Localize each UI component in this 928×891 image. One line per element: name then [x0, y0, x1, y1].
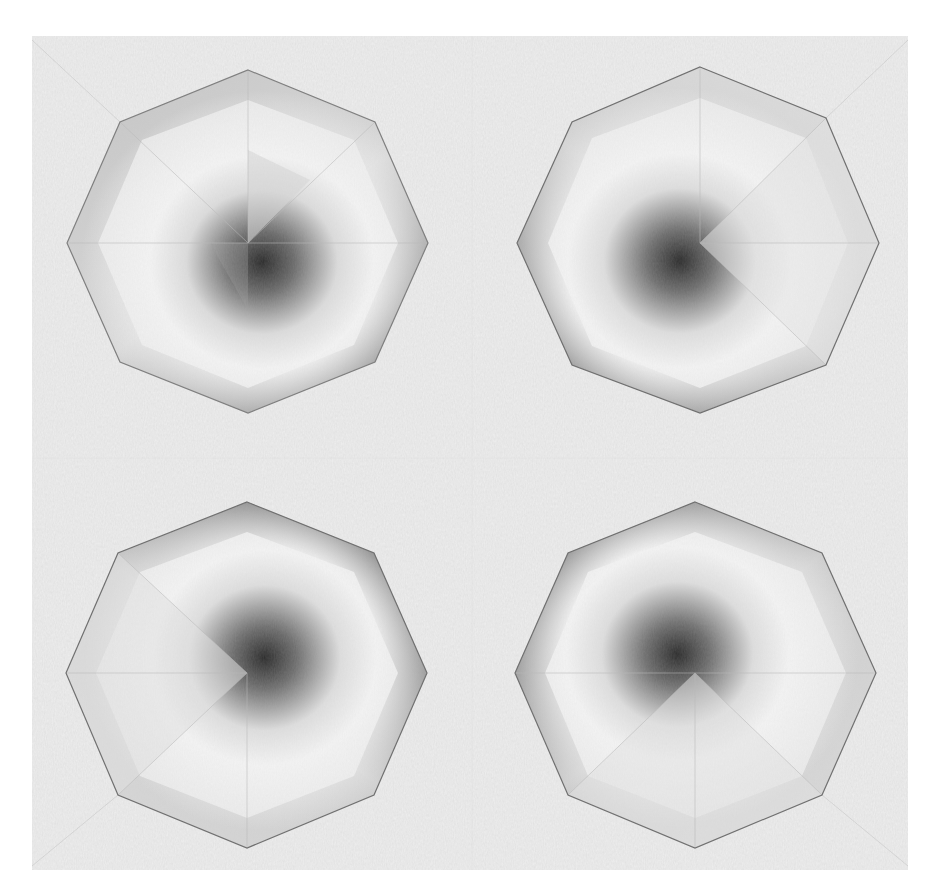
pencil-drawing	[0, 0, 928, 891]
